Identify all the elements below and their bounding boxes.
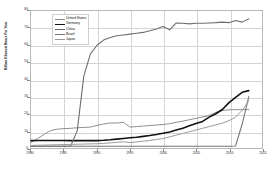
x-axis-tick-mark	[63, 149, 64, 152]
x-axis-tick-mark	[130, 149, 131, 152]
x-axis-tick-mark	[230, 149, 231, 152]
series-line	[31, 91, 249, 141]
legend-swatch-icon	[55, 39, 65, 40]
y-axis-tick-label: 80	[12, 8, 28, 12]
x-axis-tick-label: 2010	[226, 152, 233, 156]
x-axis-tick-mark	[196, 149, 197, 152]
x-axis-tick-label: 1980	[26, 152, 33, 156]
x-axis-tick-label: 2005	[193, 152, 200, 156]
y-axis-tick-label: 40	[12, 78, 28, 82]
x-axis-tick-mark	[263, 149, 264, 152]
legend-item-label: United States	[66, 17, 86, 21]
y-axis-tick-label: 30	[12, 95, 28, 99]
y-axis-tick-label: 50	[12, 60, 28, 64]
x-axis-tick-label: 2015	[259, 152, 266, 156]
series-line	[31, 110, 249, 143]
x-axis-tick-mark	[97, 149, 98, 152]
y-axis-tick-label: 20	[12, 112, 28, 116]
x-axis-tick-mark	[30, 149, 31, 152]
legend-item: Japan	[55, 37, 87, 42]
line-chart: Billion Kilowatt Hours Per Year 01020304…	[0, 0, 270, 169]
series-line	[31, 101, 249, 146]
legend-swatch-icon	[55, 19, 65, 20]
series-line	[31, 97, 249, 147]
y-axis-tick-label: 70	[12, 26, 28, 30]
y-axis-title: Billion Kilowatt Hours Per Year	[5, 15, 9, 77]
legend-item-label: Germany	[66, 22, 80, 26]
x-axis-tick-mark	[163, 149, 164, 152]
legend-item-label: Brazil	[66, 33, 74, 37]
legend-item-label: Japan	[66, 38, 75, 42]
legend: United StatesGermanyChinaBrazilJapan	[52, 14, 89, 45]
x-axis-tick-label: 1990	[93, 152, 100, 156]
legend-swatch-icon	[55, 24, 65, 25]
legend-swatch-icon	[55, 29, 65, 30]
x-axis-tick-label: 2000	[159, 152, 166, 156]
legend-swatch-icon	[55, 34, 65, 35]
x-axis-tick-label: 1985	[60, 152, 67, 156]
legend-item-label: China	[66, 28, 75, 32]
x-axis-tick-label: 1995	[126, 152, 133, 156]
y-axis-tick-label: 10	[12, 130, 28, 134]
y-axis-tick-label: 60	[12, 43, 28, 47]
